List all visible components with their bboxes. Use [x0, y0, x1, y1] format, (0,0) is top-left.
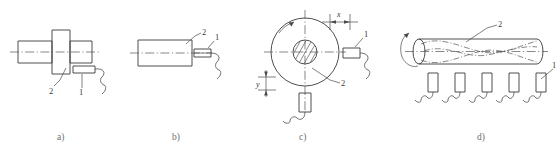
panel-c-leader-1	[355, 38, 363, 47]
panel-d-tool	[428, 73, 438, 92]
panel-d-label-2: 2	[498, 19, 502, 29]
panel-d: 2 1 d)	[401, 19, 557, 143]
panel-d-leader-1	[541, 69, 553, 79]
panel-b: 2 1 b)	[130, 27, 221, 143]
panel-c-dim-x-arrow-right-icon	[344, 20, 350, 24]
panel-d-rotation-arrowhead-icon	[404, 33, 409, 38]
panel-d-wave-mid	[424, 47, 537, 56]
panel-c-label-2: 2	[341, 78, 345, 88]
technical-figure: 2 1 a) 2 1 b)	[0, 0, 560, 153]
panel-c-dim-x-arrow-left-icon	[330, 20, 336, 24]
panel-c-tool-holder-icon-bottom	[283, 112, 305, 123]
panel-c-dim-x-label: x	[336, 10, 341, 19]
panel-c-label-1: 1	[364, 29, 368, 39]
panel-a-tool	[73, 66, 95, 73]
panel-b-label-1: 1	[215, 32, 219, 42]
panel-d-wave-upper	[421, 41, 537, 53]
panel-b-label-2: 2	[202, 27, 206, 37]
panel-b-caption: b)	[172, 132, 180, 143]
panel-c-caption: c)	[299, 132, 306, 143]
panel-d-tool-holder-icon	[442, 92, 460, 102]
panel-d-tool-holder-icon	[496, 92, 514, 102]
panel-a-label-2: 2	[49, 86, 53, 96]
panel-c: 1 2 x y c)	[255, 10, 370, 143]
panel-a-caption: a)	[57, 132, 64, 143]
panel-c-tool-right	[343, 48, 360, 58]
panel-a-label-1: 1	[79, 87, 83, 97]
panel-a: 2 1 a)	[10, 30, 106, 143]
panel-d-tool-holder-icon	[469, 92, 487, 102]
panel-c-leader-2	[312, 68, 340, 83]
panel-d-tool-holder-icon	[523, 92, 541, 102]
panel-d-label-1: 1	[552, 60, 556, 70]
panel-d-tool-row	[415, 73, 546, 102]
panel-d-caption: d)	[477, 132, 485, 143]
panel-c-tool-holder-icon	[360, 53, 370, 79]
panel-c-dim-y-label: y	[255, 80, 260, 89]
panel-d-wave-lower	[421, 50, 537, 62]
panel-b-leader-1	[208, 41, 214, 48]
panel-c-dim-y-arrow-bottom-icon	[264, 90, 268, 96]
panel-c-dim-y-arrow-top-icon	[264, 72, 268, 78]
panel-a-leader-2	[54, 68, 66, 86]
panel-d-tool	[482, 73, 492, 92]
figure-canvas: 2 1 a) 2 1 b)	[0, 0, 560, 153]
panel-d-tool-holder-icon	[415, 92, 433, 102]
panel-b-tool-holder-icon	[211, 53, 221, 79]
panel-b-leader-2	[186, 33, 201, 44]
panel-d-tool	[509, 73, 519, 92]
panel-a-tool-holder-icon	[95, 69, 106, 94]
panel-d-tool	[455, 73, 465, 92]
